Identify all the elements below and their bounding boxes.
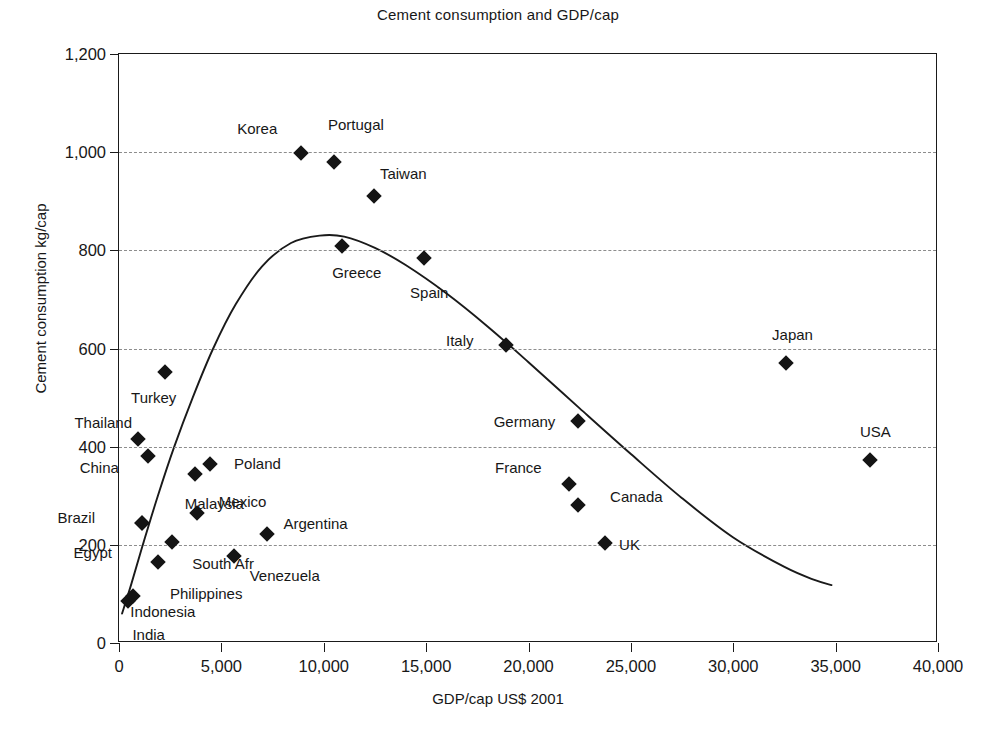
data-point-marker[interactable] bbox=[164, 535, 180, 551]
data-point-label: Indonesia bbox=[130, 603, 195, 620]
data-point-label: Venezuela bbox=[250, 567, 320, 584]
data-point-marker[interactable] bbox=[260, 526, 276, 542]
x-tick-5000 bbox=[221, 643, 222, 652]
x-tick-30000 bbox=[733, 643, 734, 652]
data-point-label: Canada bbox=[610, 488, 663, 505]
y-tick-0 bbox=[110, 643, 119, 644]
gridline-y-600 bbox=[119, 349, 936, 350]
data-point-label: Germany bbox=[494, 413, 556, 430]
x-tick-label-30000: 30,000 bbox=[708, 657, 758, 676]
data-point-label: Turkey bbox=[131, 389, 176, 406]
data-point-marker[interactable] bbox=[326, 154, 342, 170]
data-point-marker[interactable] bbox=[134, 515, 150, 531]
data-point-label: Japan bbox=[772, 326, 813, 343]
x-tick-label-25000: 25,000 bbox=[606, 657, 656, 676]
data-point-marker[interactable] bbox=[187, 466, 203, 482]
data-point-marker[interactable] bbox=[202, 456, 218, 472]
y-tick-label-800: 800 bbox=[78, 241, 106, 260]
x-tick-label-35000: 35,000 bbox=[810, 657, 860, 676]
gridline-y-400 bbox=[119, 447, 936, 448]
y-tick-label-600: 600 bbox=[78, 339, 106, 358]
data-point-marker[interactable] bbox=[366, 189, 382, 205]
plot-area: 02004006008001,0001,20005,00010,00015,00… bbox=[118, 53, 937, 642]
data-point-marker[interactable] bbox=[416, 250, 432, 266]
y-axis-title: Cement consumption kg/cap bbox=[32, 119, 49, 479]
data-point-label: Taiwan bbox=[380, 165, 427, 182]
data-point-label: Greece bbox=[332, 264, 381, 281]
y-tick-label-0: 0 bbox=[97, 634, 106, 653]
data-point-label: South Afr bbox=[192, 555, 254, 572]
data-point-marker[interactable] bbox=[334, 239, 350, 255]
data-point-marker[interactable] bbox=[862, 452, 878, 468]
data-point-label: Argentina bbox=[283, 515, 347, 532]
gridline-y-1000 bbox=[119, 152, 936, 153]
data-point-label: France bbox=[495, 459, 542, 476]
x-axis-title: GDP/cap US$ 2001 bbox=[0, 690, 996, 707]
gridline-y-200 bbox=[119, 545, 936, 546]
x-tick-10000 bbox=[324, 643, 325, 652]
y-tick-400 bbox=[110, 447, 119, 448]
data-point-marker[interactable] bbox=[597, 536, 613, 552]
x-tick-label-20000: 20,000 bbox=[503, 657, 553, 676]
data-point-label: USA bbox=[860, 423, 891, 440]
data-point-label: China bbox=[80, 459, 119, 476]
data-point-label: Brazil bbox=[58, 509, 96, 526]
y-tick-800 bbox=[110, 250, 119, 251]
chart-root: Cement consumption and GDP/cap Cement co… bbox=[0, 0, 996, 741]
x-tick-25000 bbox=[631, 643, 632, 652]
data-point-marker[interactable] bbox=[561, 477, 577, 493]
x-tick-40000 bbox=[938, 643, 939, 652]
y-tick-label-1200: 1,200 bbox=[65, 45, 106, 64]
x-tick-label-10000: 10,000 bbox=[299, 657, 349, 676]
x-tick-0 bbox=[119, 643, 120, 652]
y-tick-600 bbox=[110, 349, 119, 350]
chart-title: Cement consumption and GDP/cap bbox=[0, 6, 996, 23]
data-point-label: India bbox=[132, 626, 165, 643]
y-tick-1200 bbox=[110, 54, 119, 55]
data-point-label: Spain bbox=[410, 284, 448, 301]
data-point-marker[interactable] bbox=[157, 364, 173, 380]
data-point-marker[interactable] bbox=[778, 355, 794, 371]
x-tick-15000 bbox=[426, 643, 427, 652]
y-tick-label-400: 400 bbox=[78, 437, 106, 456]
data-point-marker[interactable] bbox=[140, 449, 156, 465]
data-point-marker[interactable] bbox=[131, 432, 147, 448]
data-point-label: Italy bbox=[446, 332, 474, 349]
data-point-label: Malaysia bbox=[185, 495, 244, 512]
x-tick-label-15000: 15,000 bbox=[401, 657, 451, 676]
data-point-label: Philippines bbox=[170, 585, 243, 602]
x-tick-label-5000: 5,000 bbox=[201, 657, 242, 676]
data-point-marker[interactable] bbox=[570, 497, 586, 513]
x-tick-label-40000: 40,000 bbox=[913, 657, 963, 676]
data-point-marker[interactable] bbox=[570, 413, 586, 429]
data-point-label: UK bbox=[619, 536, 640, 553]
y-tick-label-1000: 1,000 bbox=[65, 143, 106, 162]
gridline-y-800 bbox=[119, 250, 936, 251]
data-point-marker[interactable] bbox=[150, 554, 166, 570]
x-tick-label-0: 0 bbox=[114, 657, 123, 676]
data-point-marker[interactable] bbox=[498, 337, 514, 353]
data-point-label: Poland bbox=[234, 455, 281, 472]
data-point-label: Egypt bbox=[74, 544, 112, 561]
data-point-label: Thailand bbox=[74, 414, 132, 431]
data-point-label: Portugal bbox=[328, 116, 384, 133]
data-point-label: Korea bbox=[237, 120, 277, 137]
y-tick-1000 bbox=[110, 152, 119, 153]
data-point-marker[interactable] bbox=[293, 145, 309, 161]
x-tick-20000 bbox=[529, 643, 530, 652]
x-tick-35000 bbox=[836, 643, 837, 652]
